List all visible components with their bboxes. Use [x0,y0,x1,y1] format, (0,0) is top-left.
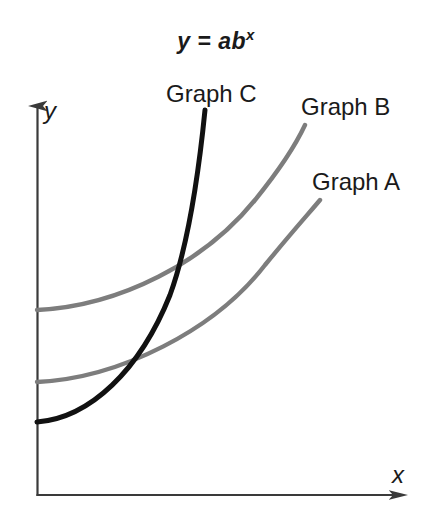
curve-graph-a [37,200,320,382]
x-axis-label: x [392,463,404,487]
y-axis-label: y [44,99,56,123]
curve-label-graph-a: Graph A [312,170,400,194]
curve-graph-c [37,110,205,422]
exponential-graphs-figure: y = abx Graph C Graph B Graph A y x [0,0,432,528]
curve-label-graph-c: Graph C [166,82,257,106]
curve-label-graph-b: Graph B [301,95,390,119]
curve-graph-b [37,125,305,310]
